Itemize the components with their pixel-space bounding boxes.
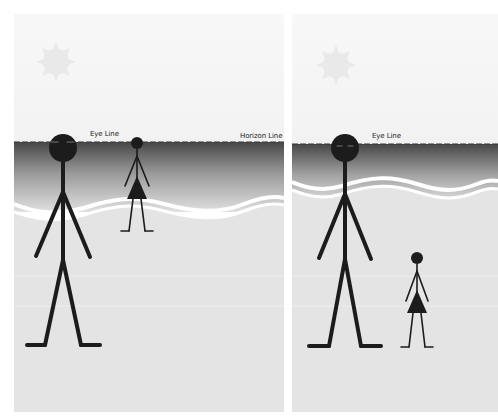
right-scene-panel: Eye Line — [292, 14, 498, 412]
ground — [292, 186, 498, 412]
sun-icon — [36, 42, 76, 82]
left-scene-illustration — [14, 14, 284, 412]
sun-icon — [316, 45, 356, 85]
right-scene-illustration — [292, 14, 498, 412]
sky — [292, 14, 498, 144]
horizon-line-label: Horizon Line — [240, 132, 282, 140]
eye-line-label: Eye Line — [372, 132, 401, 140]
left-scene-panel: Eye Line Horizon Line — [14, 14, 284, 412]
eye-line-label: Eye Line — [90, 130, 119, 138]
